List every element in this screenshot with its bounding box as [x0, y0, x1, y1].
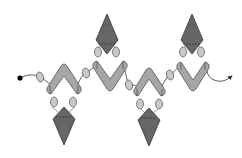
- seed-bead: [113, 47, 120, 57]
- chevron-bead-down: [93, 61, 127, 91]
- beading-diagram: [0, 0, 242, 158]
- seed-bead: [198, 47, 205, 57]
- seed-bead: [95, 47, 102, 57]
- diamond-bead-down: [138, 108, 160, 146]
- seed-bead: [180, 47, 187, 57]
- seed-bead: [70, 97, 77, 107]
- diamond-bead-down: [53, 107, 75, 145]
- unit-2: [93, 14, 127, 91]
- chevron-bead-up: [47, 64, 81, 94]
- unit-4: [177, 14, 209, 91]
- seed-bead: [51, 97, 58, 107]
- seed-bead: [156, 99, 163, 109]
- chevron-bead-up: [134, 68, 165, 96]
- chevron-bead-down: [177, 62, 209, 91]
- seed-bead: [137, 99, 144, 109]
- unit-1: [47, 64, 81, 145]
- thread-start-dot: [17, 75, 22, 80]
- unit-3: [134, 68, 165, 146]
